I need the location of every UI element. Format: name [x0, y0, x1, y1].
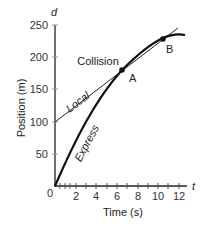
x-tick-10: 10: [152, 190, 164, 202]
x-tick-4: 4: [93, 190, 99, 202]
y-tick-250: 250: [30, 19, 48, 31]
y-axis-symbol: d: [51, 6, 58, 18]
y-tick-100: 100: [30, 116, 48, 128]
x-tick-6: 6: [114, 190, 120, 202]
x-tick-8: 8: [135, 190, 141, 202]
x-tick-12: 12: [173, 190, 185, 202]
y-axis-title: Position (m): [15, 79, 27, 138]
express-label: Express: [72, 122, 101, 163]
position-time-chart: 250 200 150 100 50 0 2 4 6 8 10 12 d t T…: [0, 0, 220, 231]
x-tick-2: 2: [73, 190, 79, 202]
x-axis-symbol: t: [192, 180, 196, 192]
collision-label: Collision: [77, 55, 119, 67]
collision-point-a: [119, 67, 125, 73]
collision-point-b: [160, 36, 166, 42]
x-axis-title: Time (s): [103, 206, 143, 218]
point-b-label: B: [166, 43, 173, 55]
y-tick-200: 200: [30, 51, 48, 63]
local-label: Local: [63, 89, 92, 115]
y-tick-50: 50: [36, 148, 48, 160]
point-a-label: A: [129, 72, 137, 84]
y-tick-150: 150: [30, 83, 48, 95]
origin-label: 0: [47, 187, 53, 199]
